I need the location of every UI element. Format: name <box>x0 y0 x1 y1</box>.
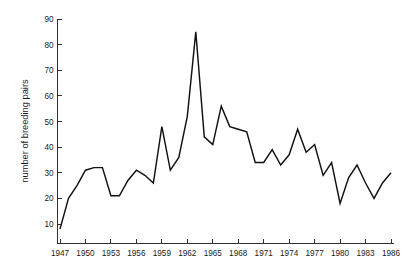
x-tick-label: 1959 <box>153 249 172 258</box>
x-tick-label: 1968 <box>229 249 248 258</box>
y-tick-label: 30 <box>44 169 54 178</box>
x-tick-label: 1956 <box>127 249 146 258</box>
x-tick-label: 1980 <box>331 249 350 258</box>
x-tick-label: 1986 <box>382 249 401 258</box>
data-series-line <box>60 32 391 229</box>
x-tick-label: 1962 <box>178 249 197 258</box>
y-tick-label: 40 <box>44 143 54 152</box>
x-tick-label: 1950 <box>76 249 95 258</box>
y-tick-label: 90 <box>44 15 54 24</box>
x-tick-label: 1953 <box>102 249 121 258</box>
y-tick-label: 70 <box>44 66 54 75</box>
y-axis-ticks: 102030405060708090 <box>44 15 61 229</box>
line-chart: 102030405060708090 194719501953195619591… <box>0 0 403 271</box>
x-tick-label: 1947 <box>51 249 70 258</box>
chart-container: 102030405060708090 194719501953195619591… <box>0 0 403 271</box>
y-tick-label: 60 <box>44 92 54 101</box>
x-tick-label: 1977 <box>306 249 325 258</box>
y-tick-label: 80 <box>44 41 54 50</box>
x-axis-ticks: 1947195019531956195919621965196819711974… <box>51 239 401 259</box>
y-tick-label: 20 <box>44 194 54 203</box>
x-tick-label: 1974 <box>280 249 299 258</box>
x-tick-label: 1971 <box>255 249 274 258</box>
y-tick-label: 10 <box>44 220 54 229</box>
y-axis-title: number of breeding pairs <box>20 79 30 183</box>
y-tick-label: 50 <box>44 118 54 127</box>
x-tick-label: 1983 <box>356 249 375 258</box>
x-tick-label: 1965 <box>204 249 223 258</box>
